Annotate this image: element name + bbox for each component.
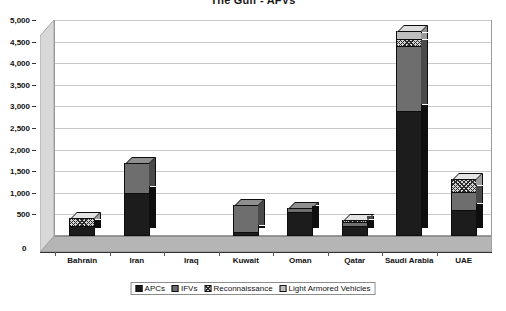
y-axis-tick-label: 1,500 bbox=[0, 167, 30, 176]
x-axis-tick-mark bbox=[273, 252, 274, 256]
bar-segment-side-face bbox=[312, 206, 319, 228]
bar-segment-side-face bbox=[476, 204, 483, 228]
y-axis-tick-label: 1,000 bbox=[0, 189, 30, 198]
y-axis-tick-mark bbox=[32, 20, 36, 21]
chart-legend: APCsIFVsReconnaissanceLight Armored Vehi… bbox=[131, 282, 376, 295]
y-axis-zero-label: 0 bbox=[22, 244, 26, 253]
bar-segment-side-face bbox=[94, 220, 101, 228]
y-axis-tick-mark bbox=[32, 171, 36, 172]
bar-segment[interactable] bbox=[124, 193, 150, 236]
chart-title: The Gulf - AFVs bbox=[0, 0, 506, 6]
y-axis-tick-label: 4,000 bbox=[0, 59, 30, 68]
bar-group[interactable] bbox=[69, 218, 95, 236]
legend-item[interactable]: IFVs bbox=[172, 284, 197, 293]
bar-segment-side-face bbox=[421, 40, 428, 104]
x-axis-tick-mark bbox=[437, 252, 438, 256]
bar-group[interactable] bbox=[451, 179, 477, 236]
bar-stack bbox=[124, 163, 150, 236]
legend-item[interactable]: Reconnaissance bbox=[204, 284, 272, 293]
y-axis-tick-label: 3,500 bbox=[0, 81, 30, 90]
bar-segment[interactable] bbox=[233, 205, 259, 232]
bars-layer bbox=[40, 20, 492, 252]
bar-segment[interactable] bbox=[396, 111, 422, 236]
y-axis-tick-label: 2,500 bbox=[0, 124, 30, 133]
x-axis-line bbox=[40, 252, 492, 253]
legend-item[interactable]: APCs bbox=[136, 284, 165, 293]
x-axis-tick-mark bbox=[382, 252, 383, 256]
y-axis-tick-mark bbox=[32, 214, 36, 215]
x-axis-tick-mark bbox=[164, 252, 165, 256]
bar-segment[interactable] bbox=[451, 179, 477, 192]
x-axis: BahrainIranIraqKuwaitOmanQatarSaudi Arab… bbox=[40, 256, 492, 272]
bar-segment-side-face bbox=[421, 105, 428, 228]
y-axis-tick-label: 4,500 bbox=[0, 38, 30, 47]
bar-segment[interactable] bbox=[124, 163, 150, 193]
y-axis-tick-label: 500 bbox=[0, 210, 30, 219]
y-axis-tick-mark bbox=[32, 106, 36, 107]
legend-swatch bbox=[280, 285, 287, 292]
y-axis-tick-label: 3,000 bbox=[0, 102, 30, 111]
bar-segment[interactable] bbox=[396, 46, 422, 111]
bar-group[interactable] bbox=[342, 220, 368, 236]
y-axis-tick-mark bbox=[32, 42, 36, 43]
bar-segment-side-face bbox=[149, 187, 156, 228]
x-axis-tick-mark bbox=[328, 252, 329, 256]
y-axis-tick-label: 2,000 bbox=[0, 146, 30, 155]
y-axis-tick-mark bbox=[32, 85, 36, 86]
x-axis-tick-label: UAE bbox=[424, 256, 504, 265]
legend-swatch bbox=[204, 285, 211, 292]
bar-stack bbox=[69, 218, 95, 236]
bar-group[interactable] bbox=[124, 163, 150, 236]
legend-label: IFVs bbox=[181, 284, 197, 293]
bar-stack bbox=[342, 220, 368, 236]
bar-segment-side-face bbox=[367, 220, 374, 228]
y-axis-tick-mark bbox=[32, 128, 36, 129]
x-axis-tick-mark bbox=[110, 252, 111, 256]
y-axis-tick-mark bbox=[32, 63, 36, 64]
bar-stack bbox=[233, 205, 259, 236]
y-axis-tick-label: 5,000 bbox=[0, 16, 30, 25]
chart-container: The Gulf - AFVs 05001,0001,5002,0002,500… bbox=[0, 0, 506, 311]
legend-label: APCs bbox=[145, 284, 165, 293]
bar-segment[interactable] bbox=[342, 226, 368, 236]
x-axis-tick-mark bbox=[219, 252, 220, 256]
bar-stack bbox=[396, 31, 422, 236]
bar-segment[interactable] bbox=[233, 232, 259, 236]
bar-segment[interactable] bbox=[69, 218, 95, 226]
x-axis-tick-mark bbox=[55, 252, 56, 256]
bar-segment[interactable] bbox=[451, 192, 477, 210]
bar-segment-side-face bbox=[258, 226, 265, 228]
legend-swatch bbox=[136, 285, 143, 292]
bar-segment-side-face bbox=[421, 33, 428, 38]
bar-group[interactable] bbox=[287, 208, 313, 236]
bar-segment[interactable] bbox=[287, 212, 313, 236]
bar-stack bbox=[451, 179, 477, 236]
bar-stack bbox=[287, 208, 313, 236]
legend-swatch bbox=[172, 285, 179, 292]
y-axis-tick-mark bbox=[32, 150, 36, 151]
bar-segment[interactable] bbox=[451, 210, 477, 236]
bar-segment[interactable] bbox=[396, 31, 422, 40]
y-axis-tick-mark bbox=[32, 193, 36, 194]
bar-group[interactable] bbox=[396, 31, 422, 236]
legend-label: Reconnaissance bbox=[213, 284, 272, 293]
bar-segment[interactable] bbox=[69, 226, 95, 236]
legend-item[interactable]: Light Armored Vehicles bbox=[280, 284, 371, 293]
legend-label: Light Armored Vehicles bbox=[289, 284, 371, 293]
bar-segment-side-face bbox=[367, 216, 374, 219]
bar-segment-side-face bbox=[476, 186, 483, 203]
bar-group[interactable] bbox=[233, 205, 259, 236]
y-axis: 05001,0001,5002,0002,5003,0003,5004,0004… bbox=[0, 20, 36, 252]
